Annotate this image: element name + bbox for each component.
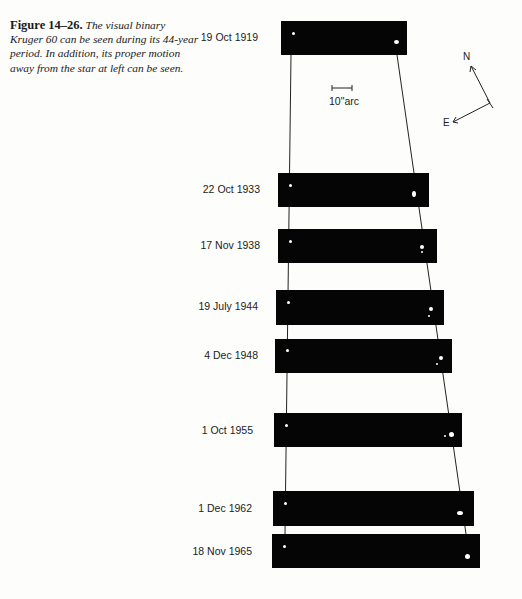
binary-star — [465, 554, 470, 559]
photo-plate — [274, 413, 462, 447]
scale-bar — [332, 85, 352, 91]
compass-east-label: E — [443, 117, 450, 128]
binary-star-companion — [444, 435, 446, 437]
reference-star — [283, 545, 286, 548]
photo-plate — [276, 290, 444, 325]
reference-star — [289, 184, 292, 187]
binary-star — [394, 40, 399, 44]
reference-star — [285, 424, 288, 427]
binary-star — [457, 511, 463, 515]
reference-star — [286, 349, 289, 352]
binary-star-companion — [428, 315, 430, 317]
photo-plate — [278, 173, 429, 207]
observation-date: 1 Dec 1962 — [172, 502, 252, 514]
observation-date: 19 July 1944 — [178, 300, 258, 312]
observation-date: 1 Oct 1955 — [173, 424, 253, 436]
compass-icon — [453, 66, 493, 123]
photo-plate — [275, 339, 452, 373]
binary-star-primary — [420, 245, 424, 249]
binary-star-companion — [436, 363, 438, 365]
compass-north-label: N — [463, 51, 470, 62]
reference-star — [289, 240, 292, 243]
observation-date: 18 Nov 1965 — [172, 545, 252, 557]
reference-star — [287, 301, 290, 304]
observation-date: 17 Nov 1938 — [180, 239, 260, 251]
photo-plate — [278, 229, 437, 263]
photo-plate — [281, 21, 407, 55]
observation-date: 4 Dec 1948 — [178, 349, 258, 361]
binary-star-primary — [449, 432, 454, 437]
reference-star — [292, 32, 295, 35]
binary-star-primary — [429, 307, 433, 311]
observation-date: 22 Oct 1933 — [180, 183, 260, 195]
reference-star — [284, 502, 287, 505]
photo-plate — [273, 491, 474, 526]
binary-star-companion — [421, 251, 423, 253]
photo-plate — [272, 534, 480, 568]
binary-star-primary — [439, 356, 443, 360]
binary-star — [412, 191, 416, 197]
observation-date: 19 Oct 1919 — [178, 31, 258, 43]
scale-bar-label: 10"arc — [329, 95, 359, 107]
